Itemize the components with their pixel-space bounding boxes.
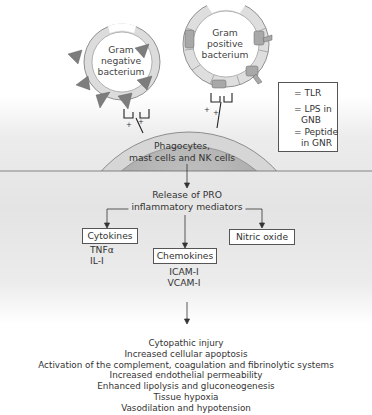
outcome-item: Increased endothelial permeability <box>0 370 372 381</box>
charge-plus-4: + <box>213 108 219 120</box>
gram-positive-label: Gram positive bacterium <box>202 27 249 60</box>
gn-label-line2: negative <box>98 55 145 66</box>
release-line1: Release of PRO <box>128 189 245 201</box>
sepsis-pathway-diagram: Gram negative bacterium Gram positive ba… <box>0 0 372 415</box>
host-cell-line2: mast cells and NK cells <box>129 152 235 164</box>
release-line2: inflammatory mediators <box>128 201 245 213</box>
legend-lps-label2: GNB <box>301 115 321 126</box>
legend-tlr-label: = TLR <box>294 88 321 99</box>
cytokine-il-1: IL-I <box>90 255 114 266</box>
outcome-item: Cytopathic injury <box>0 338 372 349</box>
legend-box: = TLR = LPS in GNB = Peptide in GNR <box>278 82 338 152</box>
outcome-item: Tissue hypoxia <box>0 392 372 403</box>
legend-peptide-label2: in GNR <box>301 138 332 149</box>
outcome-item: Enhanced lipolysis and gluconeogenesis <box>0 381 372 392</box>
gn-label-line1: Gram <box>98 44 145 55</box>
charge-plus-2: + <box>138 117 144 129</box>
legend-lps-label: = LPS in <box>294 104 332 115</box>
legend-peptide-label: = Peptide <box>294 127 338 138</box>
gp-label-line2: positive <box>202 38 249 49</box>
gp-label-line3: bacterium <box>202 49 249 60</box>
nitric-oxide-box: Nitric oxide <box>229 229 295 245</box>
host-cell-line1: Phagocytes, <box>129 140 235 152</box>
charge-plus-3: + <box>204 105 210 117</box>
outcome-item: Increased cellular apoptosis <box>0 349 372 360</box>
outcomes-list: Cytopathic injury Increased cellular apo… <box>0 338 372 414</box>
cytokines-box: Cytokines <box>82 228 138 244</box>
chemokines-box: Chemokines <box>153 248 217 264</box>
gp-label-line1: Gram <box>202 27 249 38</box>
outcome-item: Vasodilation and hypotension <box>0 403 372 414</box>
gram-positive-bacterium <box>183 0 272 128</box>
release-label: Release of PRO inflammatory mediators <box>128 189 245 213</box>
outcome-item: Activation of the complement, coagulatio… <box>0 360 372 371</box>
chemokine-vcam-1: VCAM-I <box>168 277 201 288</box>
charge-plus-1: + <box>126 120 132 132</box>
chemokine-icam-1: ICAM-I <box>168 266 201 277</box>
gram-negative-bacterium <box>68 23 160 133</box>
host-cell-label: Phagocytes, mast cells and NK cells <box>129 140 235 164</box>
chemokines-list: ICAM-I VCAM-I <box>168 266 201 288</box>
cytokines-list: TNFα IL-I <box>90 244 114 266</box>
gn-label-line3: bacterium <box>98 66 145 77</box>
gram-negative-label: Gram negative bacterium <box>98 44 145 77</box>
cytokine-tnf-alpha: TNFα <box>90 244 114 255</box>
